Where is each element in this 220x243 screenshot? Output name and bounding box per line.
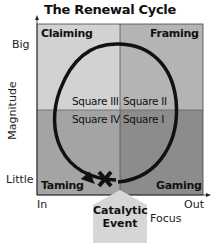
catalytic-event-label: Catalytic Event — [93, 204, 147, 230]
quadrant-label-claiming: Claiming — [41, 27, 93, 40]
y-axis-top-label: Big — [12, 38, 30, 51]
catalytic-event-line2: Event — [93, 217, 147, 230]
x-axis-label: Focus — [150, 212, 181, 225]
y-axis-arrow-icon — [35, 15, 39, 20]
x-axis-left-label: In — [37, 198, 47, 211]
y-axis-bottom-label: Little — [6, 173, 34, 186]
catalytic-event-line1: Catalytic — [93, 204, 147, 217]
x-axis-arrow-icon — [206, 193, 211, 197]
square-ii-label: Square II — [123, 95, 167, 107]
quadrant-label-taming: Taming — [41, 179, 84, 192]
y-axis-label: Magnitude — [6, 76, 19, 146]
square-iv-label: Square IV — [72, 113, 120, 125]
x-axis-right-label: Out — [184, 198, 204, 211]
quadrant-label-gaming: Gaming — [156, 179, 202, 192]
quadrant-label-framing: Framing — [150, 27, 199, 40]
square-iii-label: Square III — [72, 95, 119, 107]
square-i-label: Square I — [123, 113, 164, 125]
